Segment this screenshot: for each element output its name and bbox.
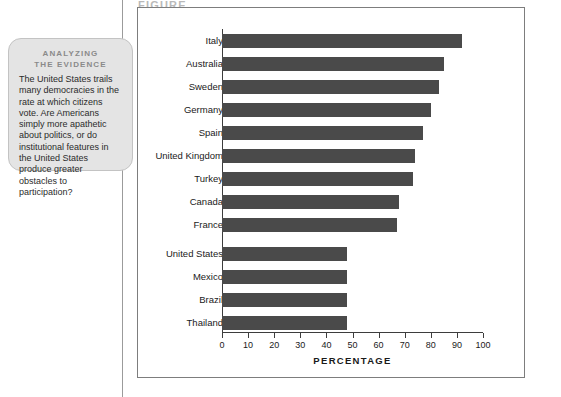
bar-row: Italy [137, 34, 525, 48]
bar [222, 316, 347, 330]
bar-row: Germany [137, 103, 525, 117]
bar-category-label: Australia [73, 57, 223, 71]
bar-category-label: Thailand [73, 316, 223, 330]
bar-category-label: Sweden [73, 80, 223, 94]
x-axis-tick [353, 333, 354, 338]
x-axis-title: PERCENTAGE [222, 355, 483, 366]
x-axis-tick [457, 333, 458, 338]
x-axis-tick [405, 333, 406, 338]
x-axis-tick [222, 333, 223, 338]
bar-category-label: Spain [73, 126, 223, 140]
x-axis-tick [300, 333, 301, 338]
bar [222, 218, 397, 232]
x-axis-tick [379, 333, 380, 338]
bar-row: Thailand [137, 316, 525, 330]
bar-row: Turkey [137, 172, 525, 186]
bar [222, 149, 415, 163]
bar-category-label: Italy [73, 34, 223, 48]
bar-row: United Kingdom [137, 149, 525, 163]
bar [222, 34, 462, 48]
bar [222, 293, 347, 307]
voter-turnout-bar-chart: ItalyAustraliaSwedenGermanySpainUnited K… [137, 7, 525, 378]
bar-row: United States [137, 247, 525, 261]
bar [222, 103, 431, 117]
page-header-fragment: FIGURE [138, 0, 398, 7]
bar [222, 270, 347, 284]
bar-row: Spain [137, 126, 525, 140]
chart-plot-area: ItalyAustraliaSwedenGermanySpainUnited K… [137, 7, 525, 378]
bar-category-label: Germany [73, 103, 223, 117]
bar-category-label: France [73, 218, 223, 232]
x-axis-tick [326, 333, 327, 338]
x-axis-tick [431, 333, 432, 338]
bar-category-label: Brazil [73, 293, 223, 307]
bar-category-label: Canada [73, 195, 223, 209]
bar-category-label: Mexico [73, 270, 223, 284]
bar-row: France [137, 218, 525, 232]
bar-category-label: United States [73, 247, 223, 261]
bar [222, 247, 347, 261]
bar-row: Brazil [137, 293, 525, 307]
bar [222, 195, 399, 209]
x-axis-tick [274, 333, 275, 338]
x-axis-tick [248, 333, 249, 338]
bar-category-label: Turkey [73, 172, 223, 186]
bar-row: Canada [137, 195, 525, 209]
bar-row: Sweden [137, 80, 525, 94]
bar [222, 80, 439, 94]
bar-row: Mexico [137, 270, 525, 284]
x-axis-tick [483, 333, 484, 338]
bar [222, 57, 444, 71]
bar-category-label: United Kingdom [73, 149, 223, 163]
x-axis-tick-label: 100 [468, 340, 498, 351]
bar [222, 126, 423, 140]
bar-row: Australia [137, 57, 525, 71]
bar [222, 172, 413, 186]
